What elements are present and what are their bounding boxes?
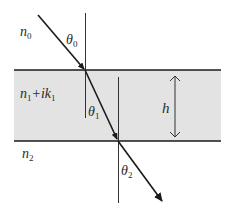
label-theta0: θ0 [66, 32, 78, 49]
absorbing-film-slab [14, 70, 221, 141]
thin-film-diagram: n0 θ0 n1+ik1 θ1 h n2 θ2 [0, 0, 233, 218]
label-h: h [162, 100, 170, 116]
label-n0: n0 [20, 24, 32, 41]
label-n1-ik1: n1+ik1 [20, 86, 56, 103]
label-theta2: θ2 [121, 163, 132, 180]
label-n2: n2 [22, 146, 34, 163]
